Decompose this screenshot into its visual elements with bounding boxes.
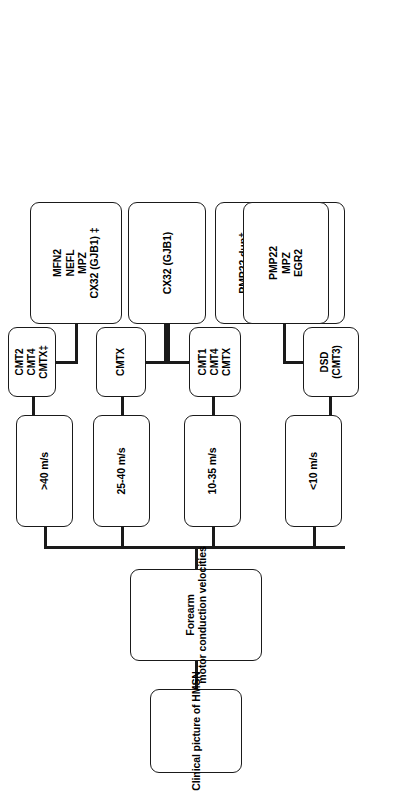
gene-item: CX32 (GJB1) ‡	[88, 227, 100, 298]
gene-item: MFN2	[51, 227, 63, 298]
velocity-label-10-35: 10-35 m/s	[206, 448, 218, 495]
genes-lt10-list: PMP22 MPZ EGR2	[267, 246, 304, 280]
node-diagnosis-lt10: DSD (CMT3)	[303, 327, 359, 397]
diagnosis-10-35-line3: CMTX	[221, 348, 233, 376]
connector-10-35-elbow-h	[167, 322, 170, 364]
node-genes-25-40: CX32 (GJB1)	[128, 202, 206, 324]
test-node-line1: Forearm	[184, 546, 196, 683]
diagnosis-10-35-line2: CMT4	[209, 348, 221, 376]
node-velocity-10-35: 10-35 m/s	[184, 415, 241, 527]
connector-25-40-to-dx	[121, 395, 124, 415]
connector-gt40-elbow-h	[75, 322, 78, 364]
connector-bus-to-10-35	[212, 525, 215, 549]
diagnosis-10-35-line1: CMT1	[197, 348, 209, 376]
diagnosis-lt10-line2: (CMT3)	[331, 345, 343, 378]
diagnosis-25-40-line1: CMTX	[115, 348, 127, 376]
connector-lt10-to-dx	[329, 395, 332, 415]
gene-item: MPZ	[280, 246, 292, 280]
diagnosis-gt40-line2: CMT4	[26, 345, 38, 378]
genes-gt40-list: MFN2 NEFL MPZ CX32 (GJB1) ‡	[51, 227, 101, 298]
diagnosis-gt40-line3: CMTX‡	[38, 345, 50, 378]
diagnosis-gt40-line1: CMT2	[14, 345, 26, 378]
connector-bus-to-gt40	[44, 525, 47, 549]
velocity-label-gt40: >40 m/s	[38, 452, 50, 490]
node-genes-lt10: PMP22 MPZ EGR2	[243, 202, 329, 324]
clinical-picture-label: Clinical picture of HMSN	[190, 671, 202, 791]
connector-bus-to-lt10	[313, 525, 316, 549]
node-diagnosis-10-35: CMT1 CMT4 CMTX	[189, 327, 241, 397]
gene-item: EGR2	[292, 246, 304, 280]
test-node-line2: motor conduction velocities	[196, 546, 208, 683]
gene-item: MPZ	[76, 227, 88, 298]
node-diagnosis-gt40: CMT2 CMT4 CMTX‡	[8, 327, 56, 397]
velocity-label-lt10: <10 m/s	[307, 452, 319, 490]
node-diagnosis-25-40: CMTX	[96, 327, 146, 397]
node-velocity-gt40: >40 m/s	[16, 415, 73, 527]
diagnosis-lt10-line1: DSD	[319, 345, 331, 378]
node-velocity-25-40: 25-40 m/s	[93, 415, 150, 527]
gene-item: CX32 (GJB1)	[161, 232, 173, 295]
node-velocity-lt10: <10 m/s	[285, 415, 342, 527]
velocity-label-25-40: 25-40 m/s	[115, 448, 127, 495]
connector-gt40-to-dx	[32, 395, 35, 415]
connector-bus-to-25-40	[121, 525, 124, 549]
node-genes-gt40: MFN2 NEFL MPZ CX32 (GJB1) ‡	[30, 202, 122, 324]
node-clinical-picture: Clinical picture of HMSN	[150, 689, 242, 773]
gene-item: NEFL	[64, 227, 76, 298]
node-forearm-conduction-velocities: Forearm motor conduction velocities	[130, 569, 262, 661]
connector-lt10-elbow-h	[283, 322, 286, 364]
connector-10-35-to-dx	[212, 395, 215, 415]
genes-25-40-list: CX32 (GJB1)	[161, 232, 173, 295]
connector-lt10-elbow-v	[283, 361, 305, 364]
gene-item: PMP22	[267, 246, 279, 280]
